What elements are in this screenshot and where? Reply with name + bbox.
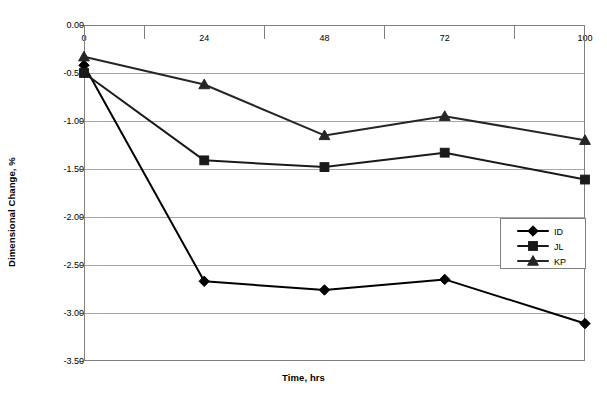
square-marker: [529, 242, 538, 251]
data-point-marker: [199, 276, 209, 286]
chart-container: Dimensional Change, % 0.00-0.50-1.00-1.5…: [0, 0, 607, 394]
legend-label-kp: KP: [554, 257, 566, 267]
triangle-marker: [79, 51, 90, 61]
series-jl: [80, 69, 590, 184]
plot-area: IDJLKP: [0, 0, 607, 394]
data-point-marker: [319, 285, 329, 295]
data-point-marker: [581, 175, 590, 184]
plot-border: [85, 26, 585, 361]
square-marker: [440, 148, 449, 157]
legend-label-id: ID: [554, 227, 564, 237]
square-marker: [581, 175, 590, 184]
legend-label-jl: JL: [554, 242, 564, 252]
data-point-marker: [440, 274, 450, 284]
data-point-marker: [529, 242, 538, 251]
series-id: [79, 60, 590, 329]
triangle-marker: [439, 111, 450, 121]
diamond-marker: [580, 318, 590, 328]
data-point-marker: [440, 148, 449, 157]
data-point-marker: [320, 163, 329, 172]
series-line: [84, 65, 585, 323]
series-line: [84, 73, 585, 180]
data-point-marker: [79, 51, 90, 61]
diamond-marker: [440, 274, 450, 284]
square-marker: [200, 156, 209, 165]
data-point-marker: [439, 111, 450, 121]
legend: IDJLKP: [501, 219, 586, 269]
diamond-marker: [319, 285, 329, 295]
data-point-marker: [200, 156, 209, 165]
square-marker: [320, 163, 329, 172]
diamond-marker: [199, 276, 209, 286]
square-marker: [80, 69, 89, 78]
data-point-marker: [580, 318, 590, 328]
x-axis-title: Time, hrs: [0, 372, 607, 383]
series-kp: [79, 51, 591, 144]
data-point-marker: [80, 69, 89, 78]
